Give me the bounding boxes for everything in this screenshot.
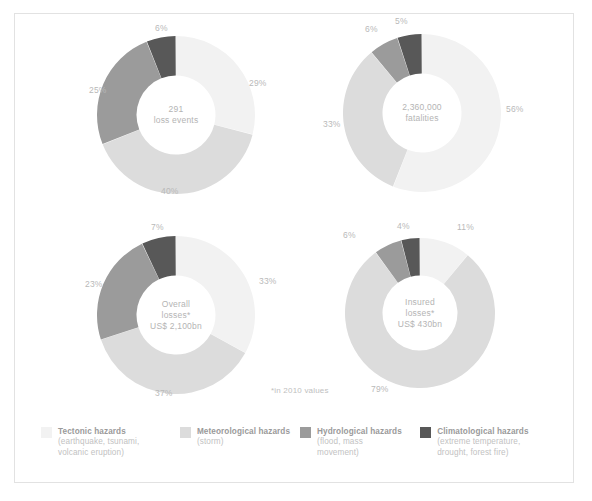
- donut-chart-overall-losses: Overalllosses*US$ 2,100bn33%37%23%7%: [97, 236, 255, 394]
- legend-subtitle-line: (earthquake, tsunami,: [58, 437, 139, 448]
- legend-swatch-hydrological: [300, 427, 311, 438]
- donut-pct-label-insured-losses-3: 4%: [397, 221, 410, 231]
- donut-pct-label-fatalities-0: 56%: [506, 104, 524, 114]
- legend-subtitle-line: (storm): [197, 437, 290, 448]
- legend-swatch-tectonic: [41, 427, 52, 438]
- donut-pct-label-loss-events-3: 6%: [155, 23, 168, 33]
- legend-title-tectonic: Tectonic hazards: [58, 426, 139, 437]
- donut-pct-label-insured-losses-0: 11%: [457, 222, 474, 232]
- donut-pct-label-insured-losses-1: 79%: [371, 384, 389, 394]
- donut-slice-loss-events-0: [176, 36, 255, 134]
- donut-pct-label-overall-losses-0: 33%: [259, 276, 277, 286]
- legend-item-climatological[interactable]: Climatological hazards(extreme temperatu…: [420, 426, 561, 458]
- donut-pct-label-loss-events-0: 29%: [249, 78, 267, 88]
- donut-slice-overall-losses-0: [176, 236, 255, 353]
- figure-frame: 291loss events29%40%25%6%2,360,000fatali…: [14, 13, 574, 483]
- donut-pct-label-overall-losses-2: 23%: [85, 279, 103, 289]
- legend-swatch-meteorological: [180, 427, 191, 438]
- donut-pct-label-overall-losses-3: 7%: [151, 222, 164, 232]
- legend-text-meteorological: Meteorological hazards(storm): [197, 426, 290, 448]
- donut-slice-loss-events-1: [103, 125, 253, 194]
- legend-text-hydrological: Hydrological hazards(flood, massmovement…: [317, 426, 402, 458]
- legend-item-hydrological[interactable]: Hydrological hazards(flood, massmovement…: [300, 426, 420, 458]
- donut-rings-insured-losses: [345, 238, 495, 388]
- donut-chart-loss-events: 291loss events29%40%25%6%: [97, 36, 255, 194]
- legend-item-tectonic[interactable]: Tectonic hazards(earthquake, tsunami,vol…: [41, 426, 180, 458]
- legend-text-tectonic: Tectonic hazards(earthquake, tsunami,vol…: [58, 426, 139, 458]
- legend: Tectonic hazards(earthquake, tsunami,vol…: [41, 426, 561, 458]
- donut-chart-fatalities: 2,360,000fatalities56%33%6%5%: [343, 34, 501, 192]
- donut-pct-label-loss-events-2: 25%: [89, 85, 107, 95]
- donut-pct-label-fatalities-2: 6%: [365, 24, 378, 34]
- legend-subtitle-line: volcanic eruption): [58, 448, 139, 459]
- donut-rings-fatalities: [343, 34, 501, 192]
- legend-subtitle-line: movement): [317, 448, 402, 459]
- donut-rings-overall-losses: [97, 236, 255, 394]
- legend-title-climatological: Climatological hazards: [437, 426, 528, 437]
- donut-pct-label-insured-losses-2: 6%: [343, 230, 356, 240]
- donut-charts-area: 291loss events29%40%25%6%2,360,000fatali…: [15, 14, 575, 484]
- legend-subtitle-line: (extreme temperature,: [437, 437, 528, 448]
- footnote-in-2010-values: *in 2010 values: [271, 386, 329, 395]
- legend-swatch-climatological: [420, 427, 431, 438]
- donut-pct-label-overall-losses-1: 37%: [155, 388, 173, 398]
- donut-pct-label-fatalities-1: 33%: [323, 119, 341, 129]
- donut-pct-label-fatalities-3: 5%: [395, 16, 408, 26]
- legend-text-climatological: Climatological hazards(extreme temperatu…: [437, 426, 528, 458]
- donut-chart-insured-losses: Insuredlosses*US$ 430bn11%79%6%4%: [345, 238, 495, 388]
- legend-subtitle-line: (flood, mass: [317, 437, 402, 448]
- donut-rings-loss-events: [97, 36, 255, 194]
- legend-title-hydrological: Hydrological hazards: [317, 426, 402, 437]
- legend-item-meteorological[interactable]: Meteorological hazards(storm): [180, 426, 300, 448]
- donut-pct-label-loss-events-1: 40%: [161, 186, 179, 196]
- legend-title-meteorological: Meteorological hazards: [197, 426, 290, 437]
- legend-subtitle-line: drought, forest fire): [437, 448, 528, 459]
